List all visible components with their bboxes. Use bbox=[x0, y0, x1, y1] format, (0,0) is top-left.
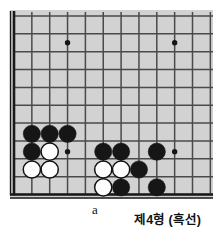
white-stone bbox=[95, 179, 112, 196]
star-point bbox=[172, 40, 177, 45]
figure-caption: 제4형 (흑선) bbox=[122, 213, 213, 227]
black-stone bbox=[130, 161, 147, 178]
star-point bbox=[65, 40, 70, 45]
star-point bbox=[172, 149, 177, 154]
point-label-a: a bbox=[92, 203, 98, 216]
black-stone bbox=[41, 125, 58, 142]
white-stone bbox=[113, 161, 130, 178]
white-stone bbox=[41, 161, 58, 178]
black-stone bbox=[148, 179, 165, 196]
black-stone bbox=[148, 143, 165, 160]
black-stone bbox=[23, 143, 40, 160]
black-stone bbox=[113, 143, 130, 160]
star-point bbox=[65, 149, 70, 154]
black-stone bbox=[95, 143, 112, 160]
go-board-diagram bbox=[0, 0, 213, 234]
white-stone bbox=[95, 161, 112, 178]
white-stone bbox=[41, 143, 58, 160]
black-stone bbox=[23, 125, 40, 142]
white-stone bbox=[23, 161, 40, 178]
black-stone bbox=[59, 125, 76, 142]
black-stone bbox=[113, 179, 130, 196]
